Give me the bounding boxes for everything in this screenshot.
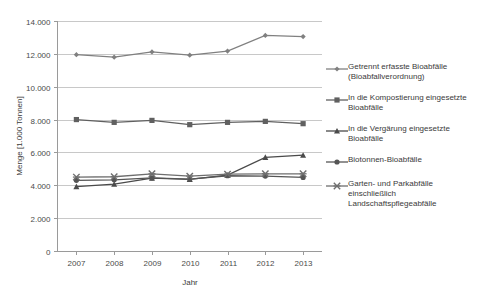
data-point-square <box>301 121 306 126</box>
x-tick-label: 2007 <box>68 259 86 268</box>
data-point-diamond <box>149 49 154 54</box>
y-axis-ticks: 14.00012.00010.0008.0006.0004.0002.0000 <box>26 18 57 257</box>
legend-item-label: Garten- und Parkabfälle einschließlich L… <box>348 179 437 209</box>
y-axis-title: Menge [1.000 Tonnen] <box>15 96 24 175</box>
y-tick-label: 12.000 <box>26 51 51 60</box>
x-axis-title: Jahr <box>182 278 198 287</box>
data-point-diamond <box>334 66 339 71</box>
data-point-square <box>334 97 339 102</box>
x-axis-ticks: 2007200820092010201120122013 <box>68 251 313 268</box>
square-marker-icon <box>326 94 348 106</box>
legend-item-label: Getrennt erfasste Bioabfälle (Bioabfallv… <box>348 62 447 82</box>
series-triangle <box>73 152 306 189</box>
y-tick-label: 6.000 <box>30 149 51 158</box>
y-tick-label: 4.000 <box>30 182 51 191</box>
gridlines <box>58 22 323 219</box>
legend-item: In die Vergärung eingesetzte Bioabfälle <box>326 124 489 144</box>
data-point-diamond <box>263 33 268 38</box>
data-point-square <box>225 120 230 125</box>
legend-item-label: In die Vergärung eingesetzte Bioabfälle <box>348 124 450 144</box>
y-tick-label: 8.000 <box>30 117 51 126</box>
data-point-square <box>112 120 117 125</box>
y-tick-label: 0 <box>46 248 51 257</box>
triangle-marker-icon <box>326 125 348 137</box>
chart-legend: Getrennt erfasste Bioabfälle (Bioabfallv… <box>326 62 489 220</box>
data-point-square <box>149 118 154 123</box>
data-point-cross <box>334 183 341 189</box>
data-point-square <box>187 122 192 127</box>
diamond-marker-icon <box>326 63 348 75</box>
y-tick-label: 2.000 <box>30 215 51 224</box>
data-point-diamond <box>74 52 79 57</box>
cross-marker-icon <box>326 180 348 192</box>
data-point-diamond <box>225 48 230 53</box>
legend-item-label: Biotonnen-Bioabfälle <box>348 155 422 165</box>
series-square <box>74 117 306 127</box>
data-point-square <box>263 119 268 124</box>
data-point-diamond <box>301 34 306 39</box>
y-tick-label: 10.000 <box>26 84 51 93</box>
circle-marker-icon <box>326 156 348 168</box>
x-tick-label: 2011 <box>220 259 238 268</box>
legend-item: Getrennt erfasste Bioabfälle (Bioabfallv… <box>326 62 489 82</box>
data-series-group <box>73 33 307 189</box>
x-tick-label: 2010 <box>182 259 200 268</box>
x-tick-label: 2009 <box>144 259 162 268</box>
x-tick-label: 2008 <box>106 259 124 268</box>
data-point-square <box>74 117 79 122</box>
data-point-circle <box>334 159 339 164</box>
x-tick-label: 2012 <box>257 259 275 268</box>
y-tick-label: 14.000 <box>26 18 51 27</box>
legend-item: Garten- und Parkabfälle einschließlich L… <box>326 179 489 209</box>
chart-container: 14.00012.00010.0008.0006.0004.0002.0000 … <box>0 0 489 293</box>
data-point-diamond <box>112 55 117 60</box>
x-tick-label: 2013 <box>295 259 313 268</box>
legend-item-label: In die Kompostierung eingesetzte Bioabfä… <box>348 93 467 113</box>
series-diamond <box>74 33 306 60</box>
data-point-diamond <box>187 53 192 58</box>
legend-item: In die Kompostierung eingesetzte Bioabfä… <box>326 93 489 113</box>
legend-item: Biotonnen-Bioabfälle <box>326 155 489 168</box>
series-circle <box>74 173 306 183</box>
